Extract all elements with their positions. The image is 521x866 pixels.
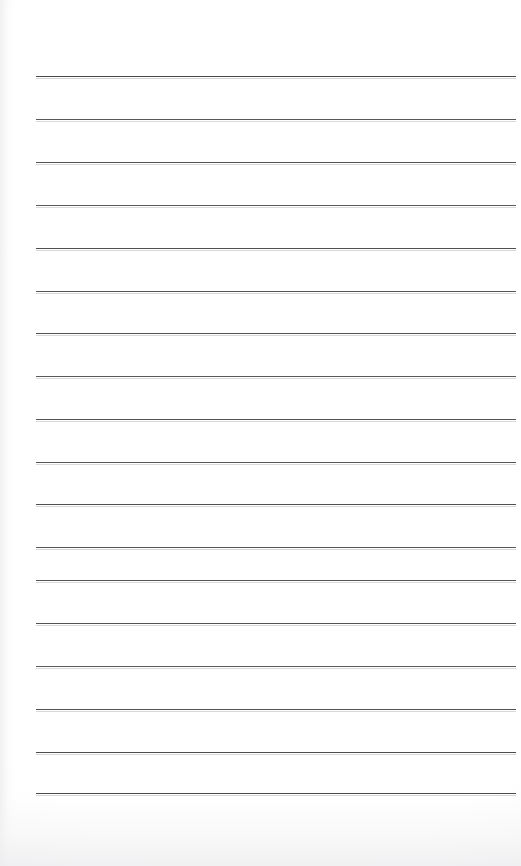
page-bottom-edge-shading — [0, 796, 521, 866]
ruled-line — [36, 291, 516, 292]
ruled-line — [36, 504, 516, 505]
ruled-line — [36, 248, 516, 249]
ruled-line — [36, 752, 516, 753]
ruled-line — [36, 333, 516, 334]
ruled-line — [36, 119, 516, 120]
ruled-line — [36, 793, 516, 794]
ruled-line — [36, 709, 516, 710]
ruled-line — [36, 419, 516, 420]
ruled-line — [36, 205, 516, 206]
ruled-line — [36, 547, 516, 548]
ruled-line — [36, 162, 516, 163]
ruled-line — [36, 666, 516, 667]
notepad-page — [0, 0, 521, 866]
ruled-line — [36, 462, 516, 463]
ruled-line — [36, 580, 516, 581]
ruled-line — [36, 376, 516, 377]
paper-texture — [0, 0, 521, 866]
page-left-edge-shading — [0, 0, 16, 866]
ruled-line — [36, 623, 516, 624]
ruled-line — [36, 76, 516, 77]
